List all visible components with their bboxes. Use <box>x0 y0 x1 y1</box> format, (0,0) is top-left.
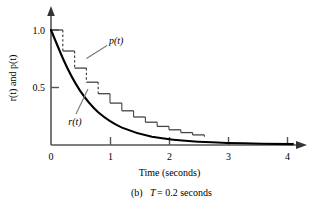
x-axis-arrow-icon <box>296 141 307 149</box>
annotation-leaders <box>76 46 107 115</box>
figure-container: 1.0 0.5 0 1 2 3 4 <box>0 0 318 202</box>
x-tick-label-1: 1 <box>108 151 113 162</box>
step-risers-solid <box>110 94 204 137</box>
figure-caption: (b) T = 0.2 seconds <box>131 187 212 199</box>
x-tick-group: 0 1 2 3 4 <box>49 137 291 162</box>
caption-prefix: (b) <box>131 187 143 199</box>
y-axis-arrow-icon <box>47 6 55 16</box>
p-of-t-label: p(t) <box>108 35 124 47</box>
p-of-t-leader-line <box>87 46 108 59</box>
x-tick-label-4: 4 <box>285 151 290 162</box>
caption-rest: = 0.2 seconds <box>157 187 212 198</box>
y-tick-label-1-0: 1.0 <box>33 25 46 36</box>
x-tick-label-2: 2 <box>167 151 172 162</box>
y-axis-title: r(t) and p(t) <box>7 55 19 102</box>
y-tick-label-0-5: 0.5 <box>33 82 46 93</box>
x-tick-label-0: 0 <box>49 151 54 162</box>
step-risers-dashed <box>63 30 98 94</box>
x-axis-title: Time (seconds) <box>139 167 201 179</box>
chart-canvas: 1.0 0.5 0 1 2 3 4 <box>0 0 318 202</box>
x-tick-label-3: 3 <box>226 151 231 162</box>
caption-symbol: T <box>150 187 157 198</box>
y-tick-group: 1.0 0.5 <box>33 25 60 94</box>
r-of-t-label: r(t) <box>68 116 82 128</box>
curve-series-r-of-t <box>51 30 293 144</box>
